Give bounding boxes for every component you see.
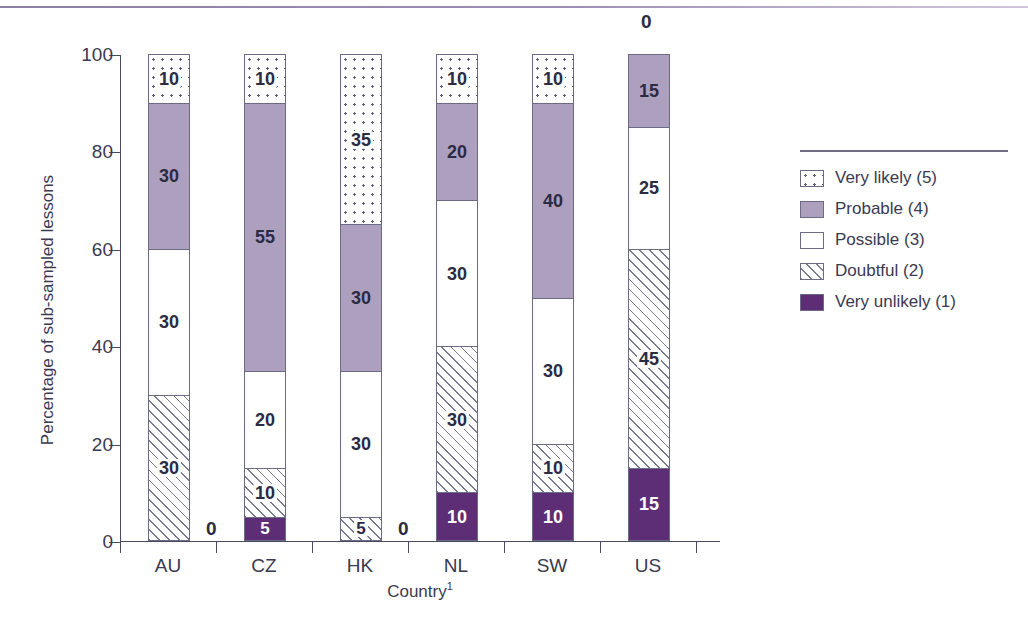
bar-AU-seg-possible[interactable]: 30 <box>148 249 190 395</box>
bar-SW-seg-very-likely[interactable]: 10 <box>532 54 574 103</box>
legend-swatch-possible-icon <box>800 232 824 249</box>
bar-NL-seg-probable[interactable]: 20 <box>436 103 478 200</box>
bar-US-seg-doubtful[interactable]: 45 <box>628 249 670 468</box>
bar-CZ-seg-very-likely[interactable]: 10 <box>244 54 286 103</box>
legend-divider-rule <box>800 150 1008 152</box>
y-axis-line <box>120 55 121 542</box>
legend-swatch-doubtful-icon <box>800 263 824 280</box>
bar-NL-seg-very-unlikely[interactable]: 10 <box>436 492 478 541</box>
bar-US-seg-very-unlikely[interactable]: 15 <box>628 468 670 541</box>
legend-item-probable[interactable]: Probable (4) <box>800 199 1010 219</box>
x-category-US: US <box>600 555 696 577</box>
x-tick-1 <box>216 542 217 553</box>
bar-SW[interactable]: 10 40 30 10 10 <box>532 54 574 541</box>
zero-label-AU: 0 <box>206 518 217 540</box>
bar-CZ-seg-probable[interactable]: 55 <box>244 103 286 371</box>
x-tick-5 <box>600 542 601 553</box>
bar-SW-seg-doubtful[interactable]: 10 <box>532 444 574 493</box>
legend-swatch-very-unlikely-icon <box>800 294 824 311</box>
legend-swatch-probable-icon <box>800 201 824 218</box>
x-axis-title: Country1 <box>120 580 720 602</box>
plot-area: 100 80 60 40 20 0 10 <box>120 55 720 542</box>
x-axis-title-text: Country <box>387 582 447 601</box>
x-tick-4 <box>504 542 505 553</box>
bar-SW-seg-very-unlikely[interactable]: 10 <box>532 492 574 541</box>
zero-label-US: 0 <box>641 11 652 33</box>
y-tick-label-0: 0 <box>102 531 113 553</box>
legend-label-probable: Probable (4) <box>835 199 929 219</box>
bar-HK[interactable]: 35 30 30 5 <box>340 54 382 541</box>
y-tick-label-100: 100 <box>81 44 113 66</box>
x-tick-3 <box>408 542 409 553</box>
bar-SW-seg-possible[interactable]: 30 <box>532 298 574 444</box>
bar-AU-seg-probable[interactable]: 30 <box>148 103 190 249</box>
legend-item-possible[interactable]: Possible (3) <box>800 230 1010 250</box>
legend-label-very-unlikely: Very unlikely (1) <box>835 292 956 312</box>
x-category-AU: AU <box>120 555 216 577</box>
x-axis-line <box>120 541 720 542</box>
bar-CZ-seg-doubtful[interactable]: 10 <box>244 468 286 517</box>
bar-AU-seg-doubtful[interactable]: 30 <box>148 395 190 541</box>
bar-US[interactable]: 15 25 45 15 <box>628 54 670 541</box>
bar-US-seg-possible[interactable]: 25 <box>628 127 670 249</box>
legend: Very likely (5) Probable (4) Possible (3… <box>800 150 1010 323</box>
bar-HK-seg-probable[interactable]: 30 <box>340 224 382 370</box>
x-tick-2 <box>312 542 313 553</box>
legend-label-possible: Possible (3) <box>835 230 925 250</box>
y-tick-label-40: 40 <box>92 336 113 358</box>
x-tick-0 <box>120 542 121 553</box>
legend-item-very-unlikely[interactable]: Very unlikely (1) <box>800 292 1010 312</box>
legend-label-doubtful: Doubtful (2) <box>835 261 924 281</box>
x-category-NL: NL <box>408 555 504 577</box>
x-tick-6 <box>696 542 697 553</box>
x-category-SW: SW <box>504 555 600 577</box>
x-category-HK: HK <box>312 555 408 577</box>
y-tick-label-20: 20 <box>92 434 113 456</box>
bar-CZ-seg-very-unlikely[interactable]: 5 <box>244 517 286 541</box>
y-tick-label-60: 60 <box>92 239 113 261</box>
y-tick-label-80: 80 <box>92 141 113 163</box>
bar-AU[interactable]: 10 30 30 30 <box>148 54 190 541</box>
bar-HK-seg-doubtful[interactable]: 5 <box>340 517 382 541</box>
legend-label-very-likely: Very likely (5) <box>835 168 937 188</box>
bar-CZ[interactable]: 10 55 20 10 5 <box>244 54 286 541</box>
legend-item-very-likely[interactable]: Very likely (5) <box>800 168 1010 188</box>
legend-item-doubtful[interactable]: Doubtful (2) <box>800 261 1010 281</box>
bar-HK-seg-possible[interactable]: 30 <box>340 371 382 517</box>
bar-NL-seg-very-likely[interactable]: 10 <box>436 54 478 103</box>
legend-swatch-very-likely-icon <box>800 170 824 187</box>
x-category-CZ: CZ <box>216 555 312 577</box>
bar-NL-seg-doubtful[interactable]: 30 <box>436 346 478 492</box>
bar-HK-seg-very-likely[interactable]: 35 <box>340 54 382 225</box>
bar-US-seg-probable[interactable]: 15 <box>628 54 670 127</box>
bar-NL-seg-possible[interactable]: 30 <box>436 200 478 346</box>
x-axis-title-footnote-marker: 1 <box>447 580 453 592</box>
bar-AU-seg-very-likely[interactable]: 10 <box>148 54 190 103</box>
bar-NL[interactable]: 10 20 30 30 10 <box>436 54 478 541</box>
y-axis-title: Percentage of sub-sampled lessons <box>38 100 58 520</box>
bar-SW-seg-probable[interactable]: 40 <box>532 103 574 298</box>
bar-CZ-seg-possible[interactable]: 20 <box>244 371 286 468</box>
zero-label-HK: 0 <box>398 518 409 540</box>
stacked-bar-chart-figure: Percentage of sub-sampled lessons 100 80… <box>0 0 1028 630</box>
